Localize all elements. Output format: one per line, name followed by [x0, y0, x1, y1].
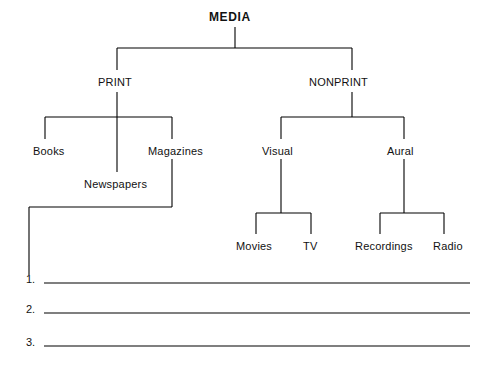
node-nonprint: NONPRINT — [309, 76, 368, 88]
tree-connector-lines — [0, 0, 492, 371]
node-visual: Visual — [262, 145, 293, 157]
node-radio: Radio — [433, 240, 463, 252]
node-media: MEDIA — [209, 10, 251, 24]
node-movies: Movies — [236, 240, 272, 252]
node-aural: Aural — [387, 145, 414, 157]
node-recordings: Recordings — [355, 240, 413, 252]
node-print: PRINT — [98, 76, 132, 88]
node-newspapers: Newspapers — [84, 178, 147, 190]
diagram-page: MEDIA PRINT NONPRINT Books Newspapers Ma… — [0, 0, 492, 371]
node-magazines: Magazines — [148, 145, 203, 157]
node-books: Books — [33, 145, 65, 157]
blank-number-2: 2. — [26, 303, 35, 315]
blank-number-1: 1. — [26, 273, 35, 285]
blank-number-3: 3. — [26, 336, 35, 348]
node-tv: TV — [303, 240, 317, 252]
